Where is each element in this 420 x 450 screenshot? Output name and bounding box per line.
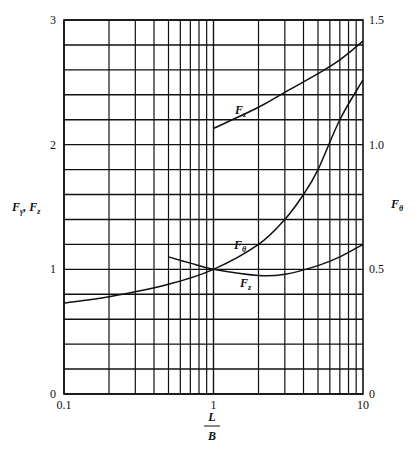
curve-label-fz-lower: Fz — [239, 276, 252, 292]
x-tick-label: 0.1 — [57, 398, 72, 412]
y-left-tick-label: 0 — [50, 387, 56, 401]
grid — [64, 20, 363, 394]
right-axis-label: Fθ — [390, 197, 404, 213]
curve-fz-lower- — [168, 244, 363, 276]
x-axis-label-denominator: B — [207, 429, 216, 443]
curve-label-fz-upper: Fz — [234, 103, 247, 119]
y-right-tick-label: 0.5 — [369, 262, 384, 276]
y-left-tick-label: 2 — [50, 138, 56, 152]
chart: 012300.51.01.50.1110 Fγ, Fz Fθ Fz Fθ Fz … — [0, 0, 420, 450]
left-axis-label: Fγ, Fz — [11, 200, 41, 216]
curve-label-ftheta: Fθ — [233, 238, 247, 254]
y-left-tick-label: 1 — [50, 262, 56, 276]
y-right-tick-label: 1.0 — [369, 138, 384, 152]
y-left-tick-label: 3 — [50, 13, 56, 27]
y-right-tick-label: 1.5 — [369, 13, 384, 27]
y-right-tick-label: 0 — [369, 387, 375, 401]
x-tick-label: 10 — [357, 398, 369, 412]
x-axis-label-numerator: L — [207, 410, 215, 424]
tick-labels: 012300.51.01.50.1110 — [50, 13, 384, 412]
